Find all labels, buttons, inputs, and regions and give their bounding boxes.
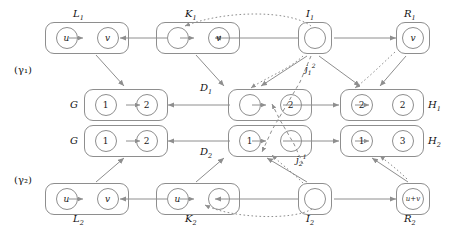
node-D1-0[interactable]	[239, 94, 261, 116]
node-H2-0[interactable]: 1	[351, 130, 373, 152]
node-K1-0[interactable]	[167, 27, 189, 49]
object-G1[interactable]: 1 2	[84, 89, 168, 121]
node-G2-0[interactable]: 1	[95, 130, 117, 152]
arrow-R1-to-H1	[380, 56, 406, 86]
object-label-I1: I1	[306, 8, 314, 22]
object-L2[interactable]: u v	[45, 183, 129, 215]
object-K2[interactable]: u	[156, 183, 240, 215]
morphism-label-j1-2: j12	[305, 62, 315, 76]
object-label-D2: D2	[200, 146, 212, 160]
object-label-L2: L2	[73, 213, 84, 227]
node-L2-1[interactable]: v	[97, 188, 119, 210]
dotted-R2-to-H2	[380, 156, 407, 179]
object-R1[interactable]: v	[396, 22, 430, 54]
node-D2-0[interactable]: 1	[239, 130, 261, 152]
node-D2-1[interactable]	[280, 130, 302, 152]
node-H1-1[interactable]: 2	[392, 94, 414, 116]
object-label-K1: K1	[185, 8, 197, 22]
object-label-G1: G	[70, 99, 78, 110]
object-K1[interactable]: v	[156, 22, 240, 54]
node-K1-1[interactable]: v	[208, 27, 230, 49]
node-K2-0[interactable]: u	[167, 188, 189, 210]
dotted-I1-to-D1	[251, 56, 303, 88]
node-H1-0[interactable]: 2	[351, 94, 373, 116]
diagram-canvas: (γ₁) (γ₂) L1 u v K1 v I1 R1 v G	[0, 0, 449, 229]
object-G2[interactable]: 1 2	[84, 125, 168, 157]
row-label-gamma1: (γ₁)	[14, 64, 32, 75]
node-H2-1[interactable]: 3	[392, 130, 414, 152]
object-D1[interactable]: 2	[228, 89, 312, 121]
node-G1-0[interactable]: 1	[95, 94, 117, 116]
arrow-I1-to-H1	[319, 56, 360, 86]
object-label-R2: R2	[404, 213, 416, 227]
object-I1[interactable]	[298, 22, 332, 54]
node-G2-1[interactable]: 2	[136, 130, 158, 152]
node-I2-0[interactable]	[304, 188, 326, 210]
node-R1-0[interactable]: v	[402, 27, 424, 49]
arrow-L1-to-G1	[96, 55, 124, 86]
node-L1-1[interactable]: v	[97, 27, 119, 49]
object-label-H2: H2	[428, 135, 441, 149]
object-label-L1: L1	[73, 8, 84, 22]
arrow-K2-to-D2	[196, 158, 224, 182]
node-K2-1[interactable]	[208, 188, 230, 210]
object-label-K2: K2	[185, 213, 197, 227]
node-G1-1[interactable]: 2	[136, 94, 158, 116]
object-label-I2: I2	[306, 213, 314, 227]
node-L1-0[interactable]: u	[56, 27, 78, 49]
object-H2[interactable]: 1 3	[340, 125, 424, 157]
arrow-L2-to-G2	[96, 158, 124, 182]
object-L1[interactable]: u v	[45, 22, 129, 54]
node-R2-0[interactable]: u+v	[402, 188, 424, 210]
dotted-R1-to-H1	[355, 52, 395, 88]
object-H1[interactable]: 2 2	[340, 89, 424, 121]
object-label-H1: H1	[428, 99, 441, 113]
object-label-D1: D1	[200, 82, 212, 96]
object-label-G2: G	[70, 135, 78, 146]
node-L2-0[interactable]: u	[56, 188, 78, 210]
node-I1-0[interactable]	[304, 27, 326, 49]
object-label-R1: R1	[404, 8, 416, 22]
row-label-gamma2: (γ₂)	[14, 174, 32, 185]
node-D1-1[interactable]: 2	[280, 94, 302, 116]
arrow-R2-to-H2	[372, 158, 408, 182]
object-R2[interactable]: u+v	[396, 183, 430, 215]
object-I2[interactable]	[298, 183, 332, 215]
morphism-label-j2-1: j21	[296, 153, 306, 167]
